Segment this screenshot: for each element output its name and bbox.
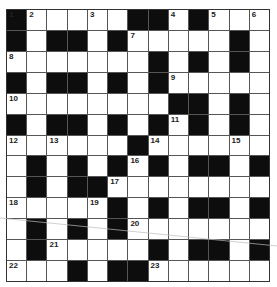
letter-cell[interactable] bbox=[27, 198, 46, 218]
letter-cell[interactable] bbox=[209, 261, 228, 281]
letter-cell[interactable] bbox=[209, 94, 228, 114]
letter-cell[interactable] bbox=[108, 94, 127, 114]
letter-cell[interactable] bbox=[47, 10, 66, 30]
letter-cell[interactable] bbox=[88, 115, 107, 135]
letter-cell[interactable] bbox=[250, 177, 269, 197]
letter-cell[interactable] bbox=[68, 136, 87, 156]
letter-cell[interactable] bbox=[68, 52, 87, 72]
letter-cell[interactable]: 16 bbox=[128, 156, 147, 176]
letter-cell[interactable] bbox=[209, 219, 228, 239]
letter-cell[interactable] bbox=[230, 73, 249, 93]
letter-cell[interactable] bbox=[209, 115, 228, 135]
letter-cell[interactable] bbox=[169, 219, 188, 239]
letter-cell[interactable] bbox=[209, 52, 228, 72]
letter-cell[interactable] bbox=[209, 136, 228, 156]
letter-cell[interactable] bbox=[88, 52, 107, 72]
letter-cell[interactable] bbox=[250, 94, 269, 114]
letter-cell[interactable] bbox=[189, 219, 208, 239]
letter-cell[interactable] bbox=[7, 177, 26, 197]
letter-cell[interactable] bbox=[209, 177, 228, 197]
letter-cell[interactable] bbox=[27, 31, 46, 51]
letter-cell[interactable]: 2 bbox=[27, 10, 46, 30]
letter-cell[interactable] bbox=[189, 31, 208, 51]
letter-cell[interactable]: 7 bbox=[128, 31, 147, 51]
letter-cell[interactable]: 3 bbox=[88, 10, 107, 30]
letter-cell[interactable] bbox=[128, 115, 147, 135]
letter-cell[interactable] bbox=[108, 10, 127, 30]
letter-cell[interactable] bbox=[47, 156, 66, 176]
letter-cell[interactable] bbox=[250, 219, 269, 239]
letter-cell[interactable] bbox=[27, 94, 46, 114]
letter-cell[interactable] bbox=[47, 177, 66, 197]
letter-cell[interactable]: 18 bbox=[7, 198, 26, 218]
letter-cell[interactable]: 19 bbox=[88, 198, 107, 218]
letter-cell[interactable] bbox=[128, 94, 147, 114]
letter-cell[interactable]: 4 bbox=[169, 10, 188, 30]
letter-cell[interactable] bbox=[230, 177, 249, 197]
letter-cell[interactable] bbox=[27, 52, 46, 72]
letter-cell[interactable] bbox=[27, 73, 46, 93]
letter-cell[interactable] bbox=[189, 261, 208, 281]
letter-cell[interactable] bbox=[250, 31, 269, 51]
letter-cell[interactable] bbox=[47, 261, 66, 281]
letter-cell[interactable] bbox=[149, 31, 168, 51]
letter-cell[interactable] bbox=[128, 198, 147, 218]
letter-cell[interactable] bbox=[47, 219, 66, 239]
letter-cell[interactable] bbox=[189, 136, 208, 156]
letter-cell[interactable] bbox=[7, 156, 26, 176]
letter-cell[interactable] bbox=[149, 219, 168, 239]
letter-cell[interactable]: 23 bbox=[149, 261, 168, 281]
letter-cell[interactable] bbox=[128, 240, 147, 260]
letter-cell[interactable] bbox=[230, 10, 249, 30]
letter-cell[interactable]: 14 bbox=[149, 136, 168, 156]
letter-cell[interactable] bbox=[47, 198, 66, 218]
letter-cell[interactable] bbox=[169, 177, 188, 197]
letter-cell[interactable] bbox=[169, 261, 188, 281]
letter-cell[interactable] bbox=[230, 198, 249, 218]
letter-cell[interactable]: 20 bbox=[128, 219, 147, 239]
letter-cell[interactable] bbox=[230, 240, 249, 260]
letter-cell[interactable] bbox=[169, 156, 188, 176]
letter-cell[interactable] bbox=[7, 219, 26, 239]
letter-cell[interactable] bbox=[250, 52, 269, 72]
letter-cell[interactable] bbox=[27, 115, 46, 135]
letter-cell[interactable] bbox=[209, 31, 228, 51]
letter-cell[interactable] bbox=[169, 136, 188, 156]
letter-cell[interactable] bbox=[88, 219, 107, 239]
letter-cell[interactable] bbox=[88, 240, 107, 260]
letter-cell[interactable] bbox=[47, 94, 66, 114]
letter-cell[interactable] bbox=[250, 73, 269, 93]
letter-cell[interactable] bbox=[128, 52, 147, 72]
letter-cell[interactable] bbox=[88, 156, 107, 176]
letter-cell[interactable] bbox=[169, 52, 188, 72]
letter-cell[interactable] bbox=[230, 261, 249, 281]
letter-cell[interactable] bbox=[108, 240, 127, 260]
letter-cell[interactable] bbox=[68, 94, 87, 114]
letter-cell[interactable] bbox=[250, 136, 269, 156]
letter-cell[interactable] bbox=[189, 73, 208, 93]
letter-cell[interactable] bbox=[88, 31, 107, 51]
letter-cell[interactable] bbox=[250, 115, 269, 135]
letter-cell[interactable]: 10 bbox=[7, 94, 26, 114]
letter-cell[interactable]: 15 bbox=[230, 136, 249, 156]
letter-cell[interactable]: 9 bbox=[169, 73, 188, 93]
letter-cell[interactable]: 11 bbox=[169, 115, 188, 135]
letter-cell[interactable]: 6 bbox=[250, 10, 269, 30]
letter-cell[interactable] bbox=[169, 240, 188, 260]
letter-cell[interactable] bbox=[27, 261, 46, 281]
letter-cell[interactable] bbox=[88, 94, 107, 114]
letter-cell[interactable] bbox=[149, 94, 168, 114]
letter-cell[interactable]: 21 bbox=[47, 240, 66, 260]
letter-cell[interactable] bbox=[169, 31, 188, 51]
letter-cell[interactable] bbox=[68, 198, 87, 218]
letter-cell[interactable] bbox=[250, 261, 269, 281]
letter-cell[interactable]: 5 bbox=[209, 10, 228, 30]
letter-cell[interactable] bbox=[88, 73, 107, 93]
letter-cell[interactable] bbox=[88, 261, 107, 281]
letter-cell[interactable] bbox=[47, 52, 66, 72]
letter-cell[interactable] bbox=[68, 240, 87, 260]
letter-cell[interactable] bbox=[7, 240, 26, 260]
letter-cell[interactable] bbox=[128, 73, 147, 93]
letter-cell[interactable] bbox=[108, 52, 127, 72]
letter-cell[interactable] bbox=[108, 136, 127, 156]
